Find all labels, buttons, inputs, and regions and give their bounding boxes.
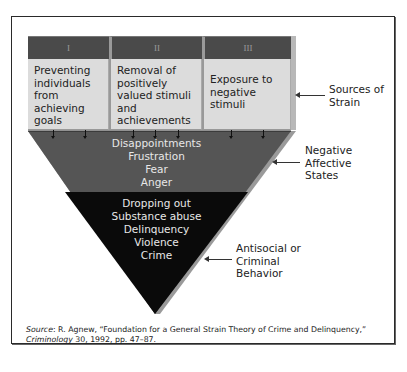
arrow-down-icon — [133, 130, 134, 137]
source-citation-detail: 30, 1992, pp. 47–87. — [73, 335, 156, 344]
behavior-item: Dropping out — [0, 197, 360, 210]
behavior-item: Violence — [0, 236, 360, 249]
behavior-item: Substance abuse — [0, 210, 360, 223]
arrow-down-icon — [155, 130, 156, 137]
arrow-left-icon — [299, 95, 325, 96]
arrow-down-icon — [231, 130, 232, 137]
source-text: : R. Agnew, “Foundation for a General St… — [53, 325, 366, 334]
source-journal: Criminology — [26, 335, 73, 344]
label-antisocial-behavior: Antisocial or Criminal Behavior — [236, 242, 302, 280]
arrow-down-icon — [263, 130, 264, 137]
arrow-down-icon — [178, 130, 179, 137]
arrow-left-icon — [208, 259, 232, 260]
label-sources-of-strain: Sources of Strain — [329, 83, 389, 108]
source-label: Source — [26, 325, 53, 334]
arrow-left-icon — [276, 162, 300, 163]
arrow-down-icon — [53, 130, 54, 137]
behavior-item: Crime — [0, 249, 360, 262]
source-citation: Source: R. Agnew, “Foundation for a Gene… — [26, 325, 366, 345]
arrow-down-icon — [85, 130, 86, 137]
label-negative-affective-states: Negative Affective States — [305, 144, 365, 182]
behaviors-list: Dropping out Substance abuse Delinquency… — [0, 197, 360, 262]
behavior-item: Delinquency — [0, 223, 360, 236]
